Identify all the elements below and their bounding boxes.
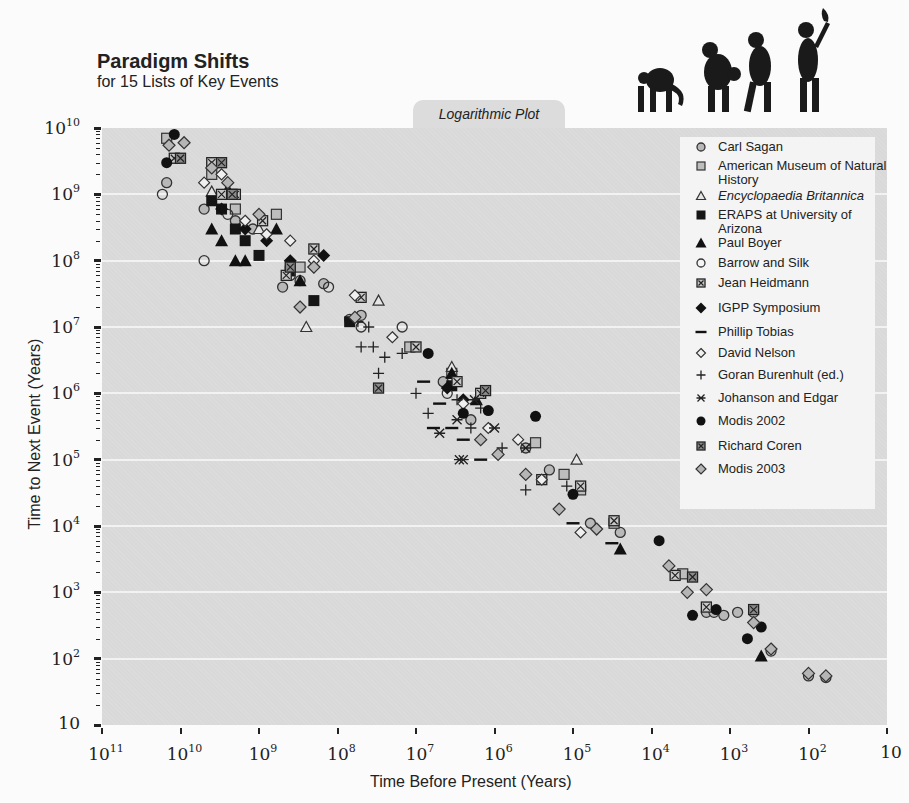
data-point [568, 489, 579, 500]
data-point [520, 484, 531, 495]
legend-label: American Museum of Natural History [718, 159, 888, 187]
square-x-dark-icon [694, 439, 708, 453]
dash-icon [694, 325, 708, 339]
legend-label: ERAPS at University of Arizona [718, 208, 888, 236]
data-point [483, 405, 494, 416]
circle-gray-icon [694, 140, 708, 154]
data-point [553, 503, 565, 515]
data-point [309, 244, 319, 254]
data-point [294, 301, 306, 313]
data-point [227, 189, 237, 199]
data-point [417, 380, 430, 382]
triangle-black-icon [694, 236, 708, 250]
data-point [670, 570, 680, 580]
legend-label: Johanson and Edgar [718, 391, 888, 405]
data-point [217, 189, 227, 199]
data-point [295, 262, 305, 272]
legend-label: Phillip Tobias [718, 325, 888, 339]
diamond-gray-icon [694, 462, 708, 476]
diamond-open-icon [694, 346, 708, 360]
square-x-icon [694, 276, 708, 290]
data-point [169, 129, 180, 140]
data-point [571, 454, 582, 464]
data-point [271, 209, 281, 219]
data-point [199, 256, 209, 266]
data-point [567, 522, 580, 524]
data-point [688, 572, 698, 582]
data-point [215, 234, 228, 246]
data-point [475, 434, 487, 446]
data-point [609, 516, 619, 526]
data-point [411, 388, 422, 399]
square-gray-icon [694, 159, 708, 173]
data-point [474, 458, 487, 460]
data-point [308, 261, 320, 273]
data-point [687, 610, 698, 621]
data-point [308, 295, 319, 306]
data-point [434, 429, 445, 438]
legend-label: Carl Sagan [718, 140, 888, 154]
data-point [161, 157, 172, 168]
series-johanson-and-edgar [434, 395, 531, 464]
data-point [733, 607, 743, 617]
data-point [374, 383, 384, 393]
data-point [575, 527, 586, 538]
data-point [368, 341, 379, 352]
data-point [373, 295, 384, 305]
legend: Carl SaganAmerican Museum of Natural His… [680, 137, 875, 509]
data-point [576, 481, 586, 491]
data-point [162, 178, 172, 188]
legend-label: Goran Burenhult (ed.) [718, 368, 888, 382]
legend-label: Jean Heidmann [718, 276, 888, 290]
data-point [379, 352, 390, 363]
asterisk-icon [694, 391, 708, 405]
data-point [458, 408, 469, 419]
data-point [178, 137, 190, 149]
data-point [240, 215, 251, 226]
data-point [530, 411, 541, 422]
data-point [285, 235, 296, 246]
data-point [206, 195, 217, 206]
legend-label: Barrow and Silk [718, 256, 888, 270]
legend-label: Encyclopaedia Britannica [718, 189, 888, 203]
data-point [217, 158, 227, 168]
data-point [240, 235, 251, 246]
data-point [356, 341, 367, 352]
data-point [465, 423, 476, 434]
data-point [700, 584, 712, 596]
square-black-icon [694, 208, 708, 222]
data-point [423, 408, 434, 419]
data-point [387, 332, 398, 343]
data-point [239, 254, 252, 266]
series-barrow-and-silk [157, 189, 452, 398]
data-point [427, 427, 440, 429]
series-encyclopaedia-britannica [206, 186, 582, 464]
plus-icon [694, 368, 708, 382]
data-point [157, 189, 167, 199]
data-point [742, 633, 753, 644]
data-point [457, 438, 470, 440]
legend-label: Modis 2003 [718, 462, 888, 476]
data-point [520, 468, 532, 480]
data-point [205, 223, 218, 235]
circle-black-icon [694, 414, 708, 428]
data-point [423, 348, 434, 359]
triangle-open-icon [694, 189, 708, 203]
series-modis-2002 [161, 129, 767, 644]
data-point [615, 527, 625, 537]
data-point [544, 465, 554, 475]
data-point [206, 186, 217, 196]
data-point [270, 223, 283, 235]
data-point [397, 322, 407, 332]
data-point [445, 427, 458, 429]
data-point [411, 342, 421, 352]
data-point [254, 250, 265, 261]
legend-label: IGPP Symposium [718, 301, 888, 315]
circle-open-icon [694, 256, 708, 270]
data-point [301, 322, 312, 332]
data-point [701, 602, 711, 612]
legend-label: Modis 2002 [718, 414, 888, 428]
data-point [481, 386, 491, 396]
data-point [681, 586, 693, 598]
data-point [654, 535, 665, 546]
